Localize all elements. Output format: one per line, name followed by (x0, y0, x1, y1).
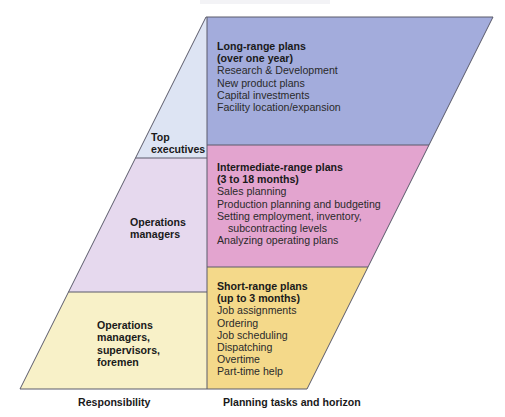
short-range-horizon: (up to 3 months) (217, 292, 308, 304)
plan-item: Facility location/expansion (217, 101, 341, 113)
plan-item: Job scheduling (217, 329, 308, 341)
intermediate-range-plans-block: Intermediate-range plans (3 to 18 months… (217, 161, 381, 246)
plan-item: Overtime (217, 353, 308, 365)
plan-item: Dispatching (217, 341, 308, 353)
text-line: foremen (97, 356, 160, 368)
caption-responsibility: Responsibility (78, 396, 150, 408)
cell-intermediate-range-ext (207, 255, 374, 267)
text-line: Operations (130, 216, 186, 228)
plan-item: Part-time help (217, 365, 308, 377)
plan-item: Analyzing operating plans (217, 234, 381, 246)
text-line: managers, (97, 331, 160, 343)
text-line: supervisors, (97, 344, 160, 356)
long-range-title: Long-range plans (217, 40, 341, 52)
long-range-plans-block: Long-range plans (over one year) Researc… (217, 40, 341, 113)
short-range-title: Short-range plans (217, 280, 308, 292)
plan-item: Production planning and budgeting (217, 198, 381, 210)
plan-item: Setting employment, inventory, (217, 210, 381, 222)
plan-item: subcontracting levels (217, 222, 381, 234)
plan-item: Sales planning (217, 185, 381, 197)
label-top-executives: Top executives (151, 131, 205, 156)
long-range-horizon: (over one year) (217, 52, 341, 64)
intermediate-range-horizon: (3 to 18 months) (217, 173, 381, 185)
short-range-plans-block: Short-range plans (up to 3 months) Job a… (217, 280, 308, 378)
label-supervisors-foremen: Operations managers, supervisors, foreme… (97, 319, 160, 369)
plan-item: Job assignments (217, 304, 308, 316)
label-operations-managers: Operations managers (130, 216, 186, 241)
text-line: executives (151, 143, 205, 155)
intermediate-range-title: Intermediate-range plans (217, 161, 381, 173)
plan-item: Capital investments (217, 89, 341, 101)
text-line: managers (130, 228, 186, 240)
plan-item: New product plans (217, 77, 341, 89)
text-line: Operations (97, 319, 160, 331)
text-line: Top (151, 131, 205, 143)
plan-item: Research & Development (217, 64, 341, 76)
caption-planning-tasks: Planning tasks and horizon (223, 396, 361, 408)
plan-item: Ordering (217, 317, 308, 329)
